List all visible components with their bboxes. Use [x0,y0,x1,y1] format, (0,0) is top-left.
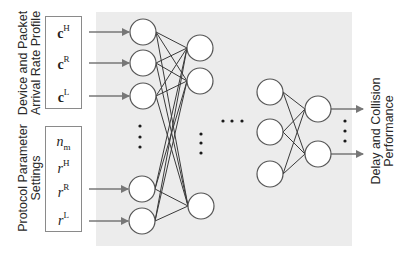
label-line: Settings [30,123,43,233]
input-box-arrival-profile: cH cR cL [45,16,82,109]
node-l2-2 [187,68,213,94]
label-line: Performance [383,71,396,191]
node-l1-5 [129,208,155,234]
node-l4-2 [305,141,331,167]
node-l3-3 [257,161,283,187]
node-l3-2 [257,119,283,145]
node-l1-4 [129,176,155,202]
label-line: Arrival Rate Profile [30,8,43,118]
var-cH: cH [46,24,81,42]
input-group-label-arrival: Device and Packet Arrival Rate Profile [17,8,45,118]
node-l2-3 [188,193,214,219]
node-l1-2 [130,50,156,76]
var-rR: rR [46,183,81,201]
var-rH: rH [46,159,81,177]
var-cL: cL [46,88,81,106]
output-label: Delay and Collision Performance [370,71,398,191]
var-cR: cR [46,55,81,73]
node-l2-1 [187,35,213,61]
node-l1-3 [130,83,156,109]
node-l1-1 [130,19,156,45]
node-l3-1 [257,79,283,105]
input-group-label-protocol: Protocol Parameter Settings [17,123,45,233]
var-rL: rL [46,211,81,229]
var-nm: nm [46,134,81,152]
neural-network-diagram: Device and Packet Arrival Rate Profile P… [0,0,407,257]
input-box-protocol-params: nm rH rR rL [45,126,82,232]
node-l4-1 [305,96,331,122]
